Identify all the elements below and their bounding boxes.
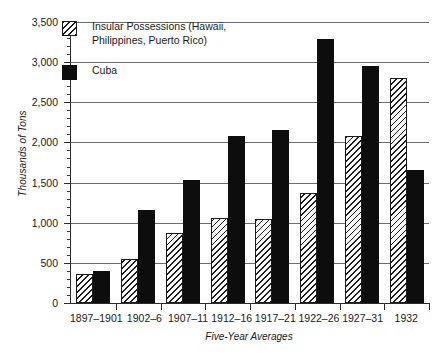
x-axis-tick	[384, 303, 385, 310]
x-axis-tick	[295, 303, 296, 310]
bar-insular-possessions	[300, 193, 317, 303]
x-axis-tick-label: 1907–11	[166, 312, 210, 324]
legend-swatch-solid-icon	[62, 65, 77, 80]
legend-item-cuba: Cuba	[62, 64, 312, 80]
y-axis-tick-label: 0	[14, 297, 58, 309]
y-axis-major-tick	[64, 263, 71, 264]
y-axis-major-tick	[64, 223, 71, 224]
bar-cuba	[228, 136, 245, 303]
x-axis-tick	[116, 303, 117, 310]
y-axis-tick-label: 500	[14, 257, 58, 269]
y-axis-tick-label: 2,500	[14, 96, 58, 108]
bar-insular-possessions	[166, 233, 183, 303]
y-axis-major-tick	[64, 303, 71, 304]
legend-label-insular: Insular Possessions (Hawaii, Philippines…	[92, 20, 226, 47]
bar-group	[340, 22, 385, 303]
y-axis-tick-label: 1,500	[14, 177, 58, 189]
bar-insular-possessions	[76, 274, 93, 303]
legend: Insular Possessions (Hawaii, Philippines…	[62, 20, 312, 97]
x-axis-tick-label: 1902–6	[123, 312, 167, 324]
x-axis-tick-label: 1917–21	[253, 312, 297, 324]
bar-cuba	[138, 210, 155, 303]
bar-insular-possessions	[211, 218, 228, 303]
y-axis-major-tick	[64, 142, 71, 143]
y-axis-tick-labels: 05001,0001,5002,0002,5003,0003,500	[14, 0, 58, 356]
x-axis-tick-label: 1927–31	[341, 312, 385, 324]
x-axis-tick	[161, 303, 162, 310]
x-axis-tick-label: 1922–26	[297, 312, 341, 324]
bar-cuba	[93, 271, 110, 303]
y-axis-tick-label: 3,500	[14, 16, 58, 28]
x-axis-tick-labels: 1897–19011902–61907–111912–161917–211922…	[70, 312, 428, 324]
y-axis-major-tick	[64, 102, 71, 103]
bar-insular-possessions	[345, 136, 362, 303]
x-axis-tick	[250, 303, 251, 310]
x-axis-tick-label: 1932	[384, 312, 428, 324]
x-axis-tick-label: 1912–16	[210, 312, 254, 324]
x-axis-tick	[340, 303, 341, 310]
y-axis-major-tick	[64, 183, 71, 184]
bar-cuba	[183, 180, 200, 303]
x-axis-tick	[205, 303, 206, 310]
x-axis-title: Five-Year Averages	[70, 331, 428, 342]
bar-cuba	[272, 130, 289, 303]
bar-insular-possessions	[390, 78, 407, 303]
y-axis-tick-label: 1,000	[14, 217, 58, 229]
bar-insular-possessions	[255, 219, 272, 303]
legend-label-cuba: Cuba	[92, 64, 117, 78]
x-axis-tick-label: 1897–1901	[70, 312, 123, 324]
x-axis-tick	[429, 303, 430, 310]
bar-insular-possessions	[121, 259, 138, 303]
y-axis-tick-label: 2,000	[14, 136, 58, 148]
bar-cuba	[362, 66, 379, 303]
bar-cuba	[317, 39, 334, 303]
bar-group	[384, 22, 429, 303]
y-axis-tick-label: 3,000	[14, 56, 58, 68]
sugar-imports-bar-chart: Thousands of Tons 05001,0001,5002,0002,5…	[0, 0, 444, 356]
bar-cuba	[407, 170, 424, 303]
legend-swatch-hatched-icon	[62, 21, 77, 36]
legend-item-insular: Insular Possessions (Hawaii, Philippines…	[62, 20, 312, 47]
